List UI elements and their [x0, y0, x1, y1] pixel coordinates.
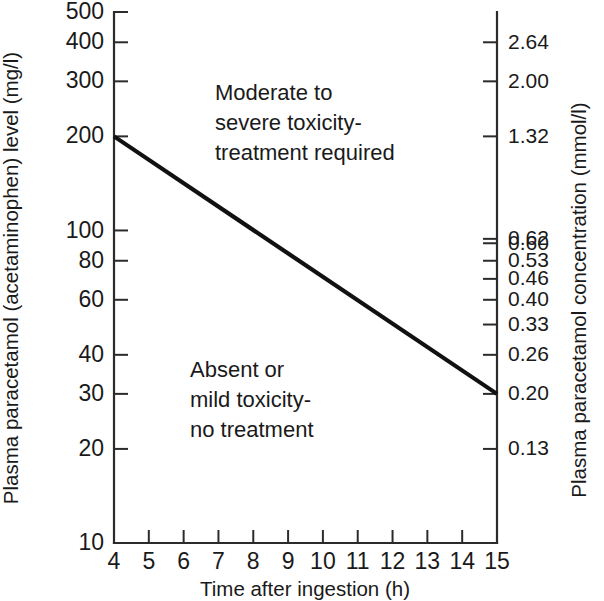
treatment-threshold-line-group [114, 136, 497, 394]
left-axis-ticks [114, 12, 128, 543]
left-axis-tick-label: 80 [78, 247, 104, 273]
right-axis-tick-label: 0.13 [508, 436, 549, 459]
left-axis-tick-label: 400 [66, 28, 104, 54]
right-axis-tick-label: 0.26 [508, 342, 549, 365]
x-axis-tick-label: 11 [346, 548, 370, 574]
left-axis-tick-label: 200 [66, 122, 104, 148]
paracetamol-nomogram-chart: 500400300200100806040302010 Plasma parac… [0, 0, 604, 601]
left-axis-tick-label: 40 [78, 341, 104, 367]
lower-annotation-line-3: no treatment [190, 417, 314, 442]
lower-annotation-line-2: mild toxicity- [190, 387, 311, 412]
x-axis-tick-label: 10 [310, 548, 336, 574]
right-axis-title: Plasma paracetamol concentration (mmol/l… [567, 102, 590, 497]
right-axis-tick-label: 0.46 [508, 266, 549, 289]
left-axis-tick-label: 300 [66, 67, 104, 93]
x-axis-tick-label: 13 [415, 548, 441, 574]
x-axis-tick-label: 6 [177, 548, 190, 574]
x-axis-tick-label: 12 [380, 548, 406, 574]
lower-region-annotation: Absent or mild toxicity- no treatment [190, 357, 314, 442]
left-axis-tick-label: 60 [78, 286, 104, 312]
upper-region-annotation: Moderate to severe toxicity- treatment r… [215, 80, 395, 165]
right-axis-tick-labels: 2.642.001.320.620.600.530.460.400.330.26… [508, 30, 549, 460]
right-axis-tick-label: 2.64 [508, 30, 549, 53]
treatment-threshold-line [114, 136, 497, 394]
x-axis-tick-label: 8 [247, 548, 260, 574]
left-axis-tick-label: 20 [78, 435, 104, 461]
x-axis-tick-label: 15 [484, 548, 510, 574]
lower-annotation-line-1: Absent or [190, 357, 284, 382]
right-axis-tick-label: 1.32 [508, 124, 549, 147]
left-axis-tick-label: 500 [66, 0, 104, 24]
x-axis-tick-label: 4 [108, 548, 121, 574]
left-axis: 500400300200100806040302010 Plasma parac… [0, 0, 128, 555]
x-axis-tick-label: 9 [282, 548, 295, 574]
x-axis-title: Time after ingestion (h) [200, 577, 410, 600]
left-axis-tick-label: 100 [66, 217, 104, 243]
x-axis-tick-labels: 456789101112131415 [108, 548, 510, 574]
right-axis-tick-label: 0.40 [508, 287, 549, 310]
upper-annotation-line-2: severe toxicity- [215, 110, 362, 135]
upper-annotation-line-1: Moderate to [215, 80, 332, 105]
x-axis-ticks [149, 530, 462, 543]
right-axis-tick-label: 0.33 [508, 312, 549, 335]
bottom-axis: 456789101112131415 Time after ingestion … [108, 530, 510, 600]
nomogram-svg: 500400300200100806040302010 Plasma parac… [0, 0, 604, 601]
left-axis-tick-label: 30 [78, 380, 104, 406]
x-axis-tick-label: 5 [142, 548, 155, 574]
left-axis-tick-label: 10 [78, 529, 104, 555]
left-axis-title: Plasma paracetamol (acetaminophen) level… [0, 52, 22, 504]
right-axis: 2.642.001.320.620.600.530.460.400.330.26… [483, 12, 590, 543]
right-axis-tick-label: 2.00 [508, 69, 549, 92]
left-axis-tick-labels: 500400300200100806040302010 [66, 0, 104, 555]
upper-annotation-line-3: treatment required [215, 140, 395, 165]
right-axis-tick-label: 0.20 [508, 381, 549, 404]
x-axis-tick-label: 7 [212, 548, 225, 574]
x-axis-tick-label: 14 [449, 548, 475, 574]
